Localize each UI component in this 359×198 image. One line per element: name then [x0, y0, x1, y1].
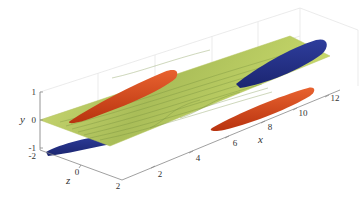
y-axis-label: y — [19, 113, 25, 125]
x-tick-label: 2 — [158, 169, 163, 179]
z-tick-label: 0 — [75, 167, 80, 177]
x-tick-label: 4 — [196, 153, 201, 163]
z-tick-label: -2 — [29, 151, 37, 161]
y-tick-label: 1 — [32, 87, 37, 97]
x-tick-label: 8 — [268, 122, 273, 132]
x-tick-label: 10 — [299, 108, 309, 118]
z-axis-label: z — [65, 174, 71, 186]
z-tick-label: 2 — [116, 181, 121, 191]
y-tick-label: 0 — [32, 115, 37, 125]
x-tick-label: 12 — [331, 93, 340, 103]
x-tick-label: 6 — [233, 138, 238, 148]
x-axis-label: x — [257, 133, 263, 145]
plot-canvas: 1 0 -1 y -2 0 2 z 2 4 6 8 10 12 x — [0, 0, 359, 198]
